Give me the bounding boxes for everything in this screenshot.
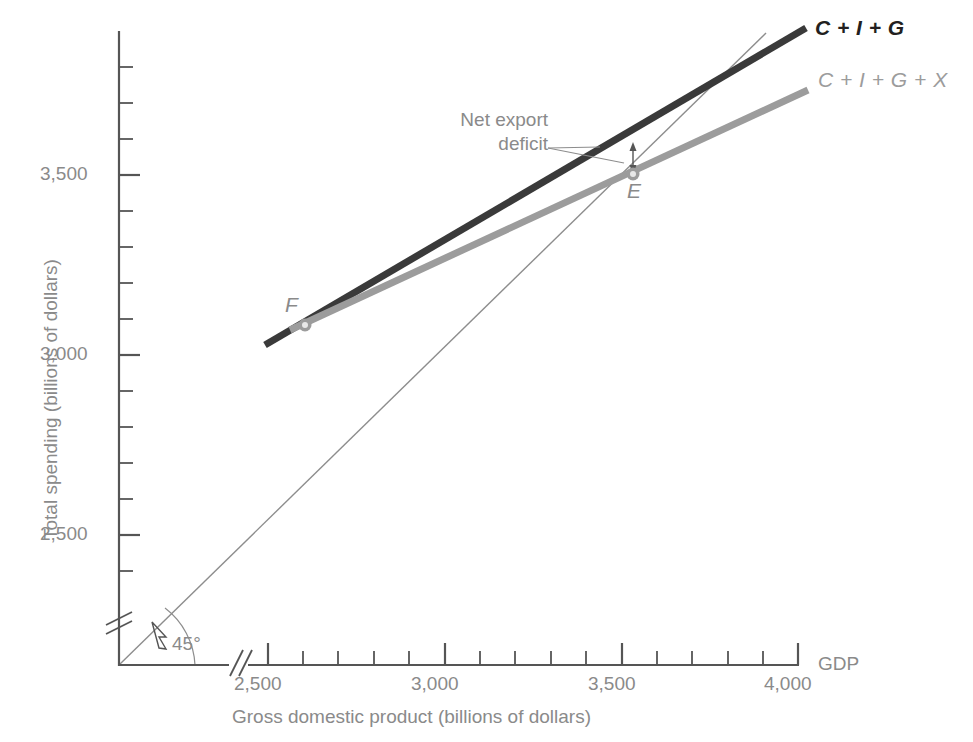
annotation-net-export-line1: Net export	[400, 108, 548, 132]
x-axis-end-label-gdp: GDP	[818, 653, 859, 674]
angle-45-label: 45°	[172, 633, 201, 654]
series-line-c-i-g	[265, 28, 806, 345]
y-axis-title: Total spending (billions of dollars)	[40, 259, 61, 540]
x-tick-label-3000: 3,000	[411, 673, 459, 694]
y-tick-label-2500: 2,500	[40, 523, 88, 544]
chart-figure: Total spending (billions of dollars) 3,5…	[0, 0, 973, 742]
x-tick-label-4000: 4,000	[764, 673, 812, 694]
curve-label-c-i-g: C + I + G	[815, 16, 905, 40]
point-f-marker	[299, 319, 312, 332]
annotation-net-export-deficit: Net export deficit	[400, 108, 548, 156]
y-tick-label-3500: 3,500	[40, 163, 88, 184]
x-tick-label-2500: 2,500	[234, 673, 282, 694]
point-label-f: F	[285, 293, 298, 317]
y-axis-ticks	[119, 67, 140, 571]
y-tick-label-3000: 3,000	[40, 343, 88, 364]
x-axis-title: Gross domestic product (billions of doll…	[232, 706, 591, 727]
curve-label-c-i-g-x: C + I + G + X	[818, 68, 948, 92]
series-line-c-i-g-x	[290, 90, 808, 330]
annotation-net-export-line2: deficit	[400, 132, 548, 156]
x-tick-label-3500: 3,500	[588, 673, 636, 694]
net-export-leader-line-2	[548, 147, 600, 148]
x-axis-ticks	[268, 643, 798, 665]
point-label-e: E	[627, 179, 641, 203]
